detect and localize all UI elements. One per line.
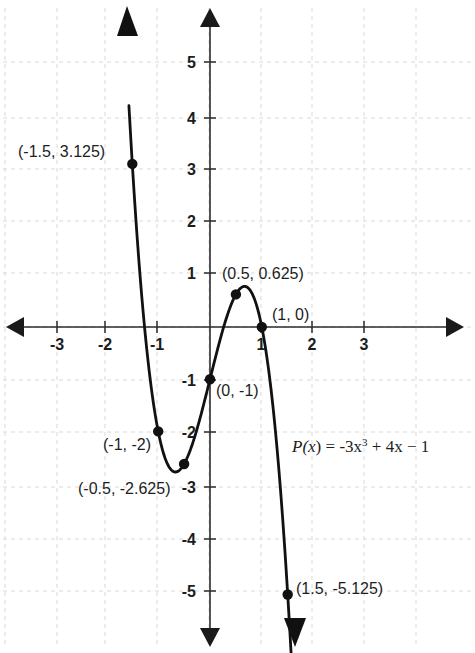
data-point-marker [205, 374, 215, 384]
point-label-0p5: (0.5, 0.625) [222, 265, 304, 282]
point-label-neg1p5: (-1.5, 3.125) [18, 143, 105, 160]
data-point-marker [231, 289, 241, 299]
point-label-zero: (0, -1) [216, 382, 259, 399]
data-point-marker [257, 322, 267, 332]
curve-accurate-group [0, 0, 475, 653]
data-point-marker [179, 459, 189, 469]
equation-cubic-term: -3x [339, 437, 362, 456]
equation-var-open: (x [302, 437, 316, 456]
data-point-marker [283, 589, 293, 599]
equation-equals: = [326, 437, 336, 456]
point-label-1p5: (1.5, -5.125) [296, 580, 383, 597]
equation-annotation: P(x) = -3x3 + 4x − 1 [291, 436, 429, 456]
equation-minus-sign: − [407, 437, 417, 456]
equation-function-name: P [291, 437, 302, 456]
data-point-marker [127, 159, 137, 169]
equation-plus-sign: + [372, 437, 382, 456]
svg-text:P(x) = -3x3 + 4x − 1: P(x) = -3x3 + 4x − 1 [291, 436, 429, 456]
coordinate-plane-svg: -3 -2 -1 1 2 3 5 4 3 2 1 -1 -2 -3 -4 -5 [0, 0, 475, 653]
equation-constant: 1 [421, 437, 430, 456]
graph-figure: -3 -2 -1 1 2 3 5 4 3 2 1 -1 -2 -3 -4 -5 [0, 0, 475, 653]
point-label-one: (1, 0) [272, 306, 309, 323]
equation-linear-term: 4x [386, 437, 404, 456]
data-point-marker [153, 426, 163, 436]
point-label-neg0p5: (-0.5, -2.625) [78, 480, 170, 497]
point-label-neg1: (-1, -2) [103, 436, 151, 453]
